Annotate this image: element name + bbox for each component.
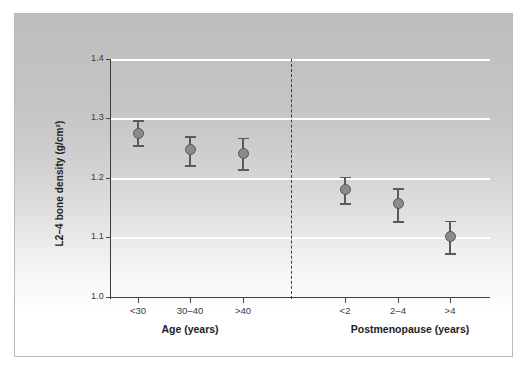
errorbar-cap-lower <box>445 253 456 255</box>
data-point-marker <box>393 198 404 209</box>
data-point-marker <box>133 128 144 139</box>
figure-root: 1.4 1.3 1.2 1.1 1.0 <30 30–40 >40 <2 2–4… <box>0 0 527 372</box>
errorbar-cap-upper <box>393 188 404 190</box>
errorbar-cap-lower <box>185 165 196 167</box>
errorbar-cap-lower <box>133 145 144 147</box>
data-point-marker <box>185 144 196 155</box>
data-point-marker <box>238 148 249 159</box>
errorbar-cap-upper <box>185 136 196 138</box>
errorbar-cap-lower <box>393 221 404 223</box>
data-point-marker <box>445 231 456 242</box>
data-point-marker <box>340 184 351 195</box>
errorbar-cap-lower <box>340 203 351 205</box>
plot-background-panel <box>15 14 512 306</box>
errorbar-cap-lower <box>238 169 249 171</box>
errorbar-cap-upper <box>445 221 456 223</box>
errorbar-cap-upper <box>340 177 351 179</box>
errorbar-cap-upper <box>238 138 249 140</box>
errorbar-cap-upper <box>133 120 144 122</box>
